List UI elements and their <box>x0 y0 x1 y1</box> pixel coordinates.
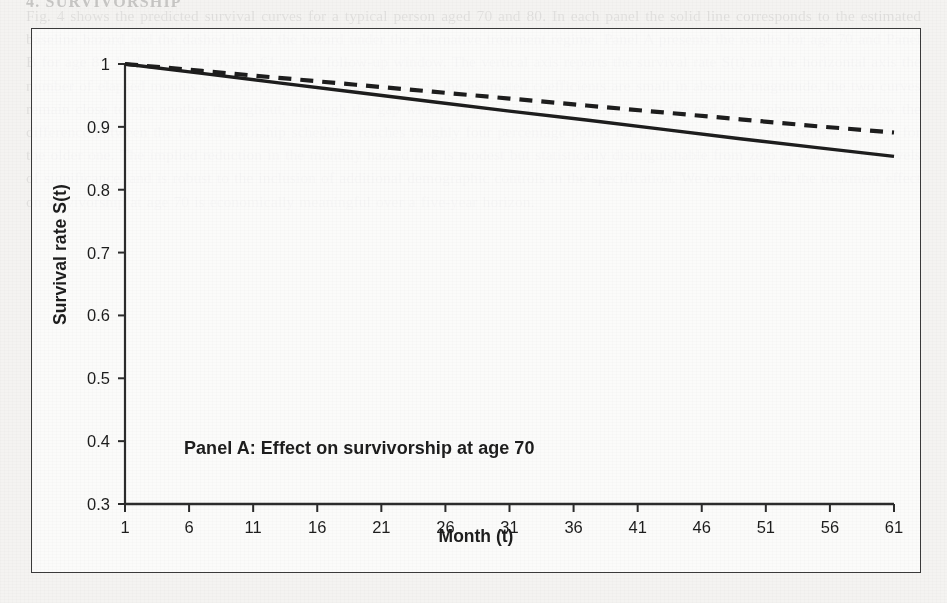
x-tick-label: 36 <box>564 518 582 537</box>
x-tick-label: 16 <box>308 518 326 537</box>
y-tick-label: 0.8 <box>87 180 110 199</box>
chart-frame: Panel A: Effect on survivorship at age 7… <box>31 28 921 573</box>
x-tick-label: 51 <box>757 518 775 537</box>
plot-area: Panel A: Effect on survivorship at age 7… <box>32 29 920 572</box>
x-tick-label: 46 <box>693 518 711 537</box>
panel-title: Panel A: Effect on survivorship at age 7… <box>184 438 534 459</box>
y-axis-title: Survival rate S(t) <box>50 105 71 405</box>
x-tick-label: 61 <box>885 518 903 537</box>
series-line-alternative <box>125 64 894 133</box>
x-tick-label: 26 <box>436 518 454 537</box>
x-axis-title: Month (t) <box>32 526 920 547</box>
y-tick-label: 0.7 <box>87 243 110 262</box>
x-tick-label: 11 <box>245 518 262 537</box>
x-tick-label: 56 <box>821 518 839 537</box>
x-tick-label: 21 <box>372 518 390 537</box>
y-tick-label: 0.6 <box>87 306 110 325</box>
series-line-baseline <box>125 64 894 156</box>
y-tick-label: 0.4 <box>87 432 110 451</box>
x-tick-label: 31 <box>500 518 518 537</box>
y-tick-label: 1 <box>101 55 110 74</box>
x-tick-label: 41 <box>628 518 646 537</box>
x-tick-label: 6 <box>184 518 193 537</box>
x-tick-label: 1 <box>120 518 129 537</box>
background-page-heading: 4. SURVIVORSHIP <box>26 0 182 11</box>
y-tick-label: 0.9 <box>87 117 110 136</box>
y-tick-label: 0.5 <box>87 369 110 388</box>
y-tick-label: 0.3 <box>87 495 110 514</box>
survival-plot-svg <box>32 29 922 574</box>
